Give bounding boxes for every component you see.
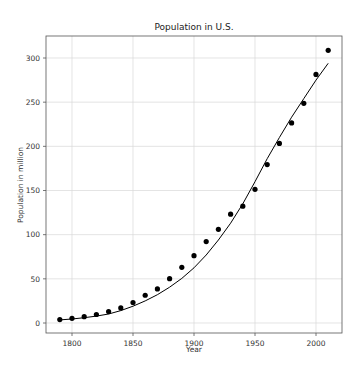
axis-ticks: 18001850190019502000050100150200250300	[26, 54, 326, 348]
y-tick-label: 300	[26, 54, 41, 63]
data-point	[57, 317, 62, 322]
data-point	[106, 309, 111, 314]
x-tick-label: 1950	[245, 339, 264, 348]
y-tick-label: 50	[30, 275, 40, 284]
data-point	[179, 265, 184, 270]
data-point	[167, 276, 172, 281]
grid	[46, 36, 342, 333]
data-point	[130, 300, 135, 305]
x-tick-label: 2000	[306, 339, 325, 348]
chart-title: Population in U.S.	[154, 22, 233, 32]
data-point	[313, 72, 318, 77]
x-tick-label: 1850	[123, 339, 142, 348]
data-point	[240, 204, 245, 209]
data-point	[277, 141, 282, 146]
data-point	[326, 48, 331, 53]
data-point	[118, 305, 123, 310]
x-axis-label: Year	[185, 345, 203, 354]
data-point	[82, 314, 87, 319]
y-tick-label: 200	[26, 142, 41, 151]
data-point	[301, 101, 306, 106]
data-point	[143, 293, 148, 298]
population-chart: 18001850190019502000050100150200250300 P…	[0, 0, 359, 374]
data-point	[69, 316, 74, 321]
data-point	[289, 120, 294, 125]
data-point	[191, 253, 196, 258]
data-point	[228, 212, 233, 217]
y-tick-label: 100	[26, 230, 41, 239]
y-axis-label: Population in million	[16, 147, 25, 223]
data-point	[265, 162, 270, 167]
data-point	[216, 227, 221, 232]
x-tick-label: 1800	[62, 339, 81, 348]
data-point	[94, 312, 99, 317]
y-tick-label: 250	[26, 98, 41, 107]
data-point	[252, 187, 257, 192]
y-tick-label: 0	[35, 319, 40, 328]
y-tick-label: 150	[26, 186, 41, 195]
data-point	[155, 286, 160, 291]
data-point	[204, 239, 209, 244]
